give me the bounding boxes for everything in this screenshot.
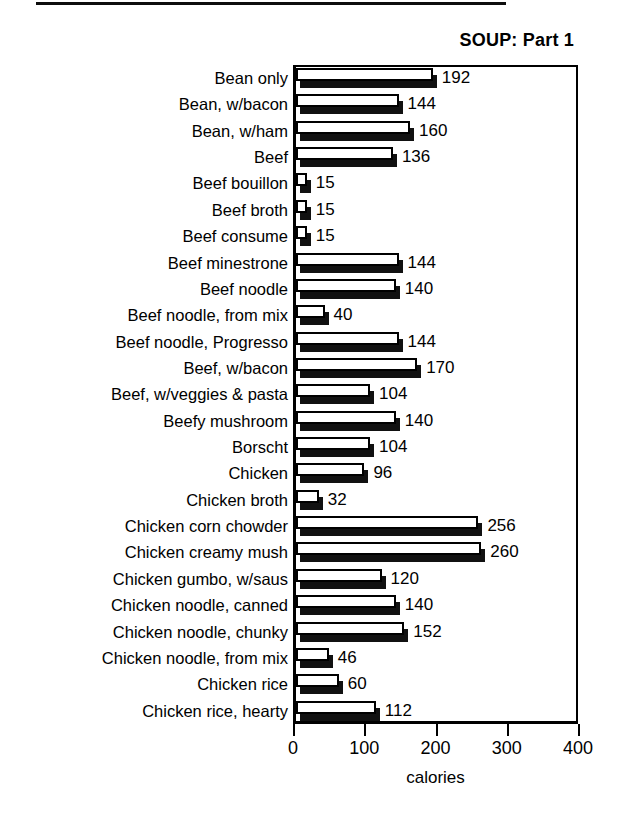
bar-face: [296, 384, 370, 397]
bar-value-label: 160: [419, 120, 447, 144]
bar: [296, 147, 398, 169]
bar-value-label: 15: [316, 172, 335, 196]
x-tick: [436, 724, 438, 736]
category-label: Bean, w/bacon: [179, 91, 288, 118]
bar-value-label: 170: [426, 357, 454, 381]
bar-row: Chicken96: [0, 460, 627, 487]
category-label: Chicken noodle, from mix: [102, 645, 288, 672]
bar-row: Beef consume15: [0, 223, 627, 250]
category-label: Beefy mushroom: [163, 408, 288, 435]
bar-value-label: 140: [405, 594, 433, 618]
bar-face: [296, 147, 393, 160]
bar-face: [296, 542, 481, 555]
x-tick: [293, 724, 295, 736]
bar: [296, 68, 438, 90]
bar: [296, 516, 483, 538]
bar: [296, 332, 404, 354]
category-label: Bean, w/ham: [192, 118, 288, 145]
bar-value-label: 140: [405, 410, 433, 434]
bar-value-label: 144: [408, 252, 436, 276]
bar-rows: Bean only192Bean, w/bacon144Bean, w/ham1…: [0, 65, 627, 724]
bar: [296, 253, 404, 275]
bar-row: Beefy mushroom140: [0, 408, 627, 435]
bar-value-label: 40: [334, 304, 353, 328]
bar: [296, 121, 415, 143]
bar-row: Chicken gumbo, w/saus120: [0, 566, 627, 593]
bar-value-label: 144: [408, 93, 436, 117]
bar-value-label: 32: [328, 489, 347, 513]
bar: [296, 569, 387, 591]
category-label: Chicken broth: [186, 487, 288, 514]
bar-row: Bean, w/bacon144: [0, 91, 627, 118]
bar-face: [296, 490, 319, 503]
bar-value-label: 60: [348, 673, 367, 697]
bar-face: [296, 226, 307, 239]
bar-row: Bean only192: [0, 65, 627, 92]
bar-value-label: 46: [338, 647, 357, 671]
bar-face: [296, 200, 307, 213]
bar-face: [296, 437, 370, 450]
bar-value-label: 256: [487, 515, 515, 539]
bar-face: [296, 253, 399, 266]
bar-row: Chicken rice60: [0, 671, 627, 698]
x-tick-label: 400: [548, 738, 608, 759]
category-label: Borscht: [232, 434, 288, 461]
bar: [296, 595, 401, 617]
bar-value-label: 260: [490, 541, 518, 565]
bar-row: Chicken creamy mush260: [0, 539, 627, 566]
bar-row: Beef noodle, Progresso144: [0, 329, 627, 356]
bar-value-label: 140: [405, 278, 433, 302]
x-tick-label: 300: [477, 738, 537, 759]
bar-face: [296, 68, 433, 81]
bar: [296, 305, 330, 327]
bar-row: Chicken rice, hearty112: [0, 698, 627, 725]
category-label: Beef consume: [183, 223, 288, 250]
bar-row: Beef noodle140: [0, 276, 627, 303]
bar-face: [296, 463, 364, 476]
bar-value-label: 112: [385, 700, 412, 724]
x-axis-title: calories: [293, 768, 578, 788]
bar: [296, 358, 422, 380]
x-tick: [507, 724, 509, 736]
bar: [296, 279, 401, 301]
bar: [296, 411, 401, 433]
bar: [296, 94, 404, 116]
bar-face: [296, 173, 307, 186]
category-label: Chicken gumbo, w/saus: [113, 566, 288, 593]
x-tick-label: 200: [406, 738, 466, 759]
x-tick-label: 0: [263, 738, 323, 759]
bar: [296, 384, 375, 406]
bar-face: [296, 358, 417, 371]
category-label: Chicken creamy mush: [125, 539, 288, 566]
bar: [296, 701, 381, 723]
bar-row: Bean, w/ham160: [0, 118, 627, 145]
x-tick: [364, 724, 366, 736]
bar-face: [296, 701, 376, 714]
category-label: Chicken: [228, 460, 288, 487]
bar: [296, 648, 334, 670]
category-label: Beef, w/bacon: [183, 355, 288, 382]
bar: [296, 200, 312, 222]
bar: [296, 437, 375, 459]
bar-value-label: 152: [413, 621, 441, 645]
bar-value-label: 104: [379, 383, 407, 407]
bar-value-label: 104: [379, 436, 407, 460]
category-label: Beef minestrone: [168, 250, 288, 277]
x-tick-label: 100: [334, 738, 394, 759]
bar: [296, 226, 312, 248]
bar-row: Chicken noodle, chunky152: [0, 619, 627, 646]
bar-row: Chicken noodle, canned140: [0, 592, 627, 619]
x-axis-ticks: [0, 724, 627, 736]
bar: [296, 463, 369, 485]
bar-value-label: 144: [408, 331, 436, 355]
bar-face: [296, 279, 396, 292]
category-label: Chicken rice, hearty: [142, 698, 288, 725]
bar: [296, 490, 324, 512]
bar-value-label: 15: [316, 225, 335, 249]
bar: [296, 674, 344, 696]
bar: [296, 173, 312, 195]
bar-value-label: 136: [402, 146, 430, 170]
bar-row: Beef noodle, from mix40: [0, 302, 627, 329]
category-label: Beef noodle, Progresso: [116, 329, 288, 356]
bar-face: [296, 305, 325, 318]
